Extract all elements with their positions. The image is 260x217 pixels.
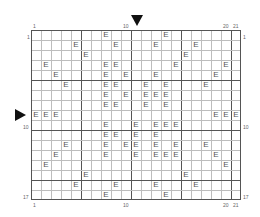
axis-label: 10 bbox=[123, 23, 129, 29]
grid-cell-filled[interactable]: E bbox=[211, 110, 221, 120]
grid-cell-filled[interactable]: E bbox=[171, 150, 181, 160]
grid-cell-filled[interactable]: E bbox=[131, 140, 141, 150]
grid-cell-filled[interactable]: E bbox=[151, 150, 161, 160]
grid-cell-filled[interactable]: E bbox=[61, 140, 71, 150]
grid-cell-filled[interactable]: E bbox=[51, 110, 61, 120]
grid-cell-filled[interactable]: E bbox=[161, 190, 171, 200]
grid-cell-filled[interactable]: E bbox=[41, 160, 51, 170]
grid-cell-filled[interactable]: E bbox=[111, 60, 121, 70]
grid-cell-filled[interactable]: E bbox=[61, 80, 71, 90]
grid-cell-filled[interactable]: E bbox=[191, 40, 201, 50]
grid-cell-filled[interactable]: E bbox=[111, 40, 121, 50]
grid-line bbox=[171, 31, 172, 199]
grid-cell-filled[interactable]: E bbox=[161, 90, 171, 100]
grid-cell-filled[interactable]: E bbox=[71, 180, 81, 190]
grid-cell-filled[interactable]: E bbox=[101, 150, 111, 160]
grid-line bbox=[191, 31, 192, 199]
grid-cell-filled[interactable]: E bbox=[41, 110, 51, 120]
grid-cell-filled[interactable]: E bbox=[151, 70, 161, 80]
grid-cell-filled[interactable]: E bbox=[181, 50, 191, 60]
grid-cell-filled[interactable]: E bbox=[171, 120, 181, 130]
grid-cell-filled[interactable]: E bbox=[141, 80, 151, 90]
grid-cell-filled[interactable]: E bbox=[221, 60, 231, 70]
grid-cell-filled[interactable]: E bbox=[71, 40, 81, 50]
grid-line bbox=[32, 50, 240, 51]
grid-line bbox=[111, 31, 112, 199]
grid-cell-filled[interactable]: E bbox=[181, 170, 191, 180]
grid-cell-filled[interactable]: E bbox=[141, 100, 151, 110]
grid-cell-filled[interactable]: E bbox=[121, 140, 131, 150]
grid-line bbox=[32, 60, 240, 61]
grid-cell-filled[interactable]: E bbox=[101, 140, 111, 150]
grid-cell-filled[interactable]: E bbox=[101, 70, 111, 80]
grid-line bbox=[151, 31, 152, 199]
grid-line bbox=[91, 31, 92, 199]
axis-label: 20 bbox=[223, 23, 229, 29]
grid-cell-filled[interactable]: E bbox=[101, 190, 111, 200]
grid-cell-filled[interactable]: E bbox=[141, 90, 151, 100]
grid-cell-filled[interactable]: E bbox=[151, 140, 161, 150]
grid-line bbox=[141, 31, 142, 199]
axis-label: 10 bbox=[123, 202, 129, 208]
grid-cell-filled[interactable]: E bbox=[161, 100, 171, 110]
grid-cell-filled[interactable]: E bbox=[101, 80, 111, 90]
grid-line bbox=[32, 110, 240, 111]
axis-label: 21 bbox=[233, 23, 239, 29]
grid-cell-filled[interactable]: E bbox=[231, 110, 241, 120]
grid-cell-filled[interactable]: E bbox=[151, 120, 161, 130]
grid-cell-filled[interactable]: E bbox=[221, 160, 231, 170]
axis-label: 10 bbox=[243, 124, 249, 130]
axis-label: 1 bbox=[33, 23, 36, 29]
grid-cell-filled[interactable]: E bbox=[161, 150, 171, 160]
grid-cell-filled[interactable]: E bbox=[101, 30, 111, 40]
grid-cell-filled[interactable]: E bbox=[51, 150, 61, 160]
grid-cell-filled[interactable]: E bbox=[101, 130, 111, 140]
grid-line bbox=[32, 40, 240, 41]
grid-cell-filled[interactable]: E bbox=[151, 40, 161, 50]
grid-cell-filled[interactable]: E bbox=[191, 180, 201, 190]
axis-label: 21 bbox=[233, 202, 239, 208]
grid-cell-filled[interactable]: E bbox=[221, 110, 231, 120]
grid-cell-filled[interactable]: E bbox=[131, 150, 141, 160]
grid-cell-filled[interactable]: E bbox=[171, 140, 181, 150]
grid-cell-filled[interactable]: E bbox=[51, 70, 61, 80]
grid-line bbox=[32, 160, 240, 161]
grid-cell-filled[interactable]: E bbox=[201, 80, 211, 90]
grid-cell-filled[interactable]: E bbox=[171, 60, 181, 70]
grid-line bbox=[121, 31, 122, 199]
axis-label: 1 bbox=[33, 202, 36, 208]
grid-line bbox=[32, 90, 240, 91]
grid-cell-filled[interactable]: E bbox=[101, 60, 111, 70]
grid-cell-filled[interactable]: E bbox=[101, 90, 111, 100]
grid-cell-filled[interactable]: E bbox=[121, 70, 131, 80]
grid-cell-filled[interactable]: E bbox=[81, 170, 91, 180]
grid-cell-filled[interactable]: E bbox=[131, 120, 141, 130]
grid-cell-filled[interactable]: E bbox=[101, 100, 111, 110]
grid-line bbox=[32, 70, 240, 71]
grid-cell-filled[interactable]: E bbox=[111, 100, 121, 110]
grid-cell-filled[interactable]: E bbox=[161, 120, 171, 130]
grid-cell-filled[interactable]: E bbox=[151, 90, 161, 100]
grid-cell-filled[interactable]: E bbox=[111, 180, 121, 190]
grid-cell-filled[interactable]: E bbox=[161, 30, 171, 40]
axis-label: 17 bbox=[23, 194, 29, 200]
grid-cell-filled[interactable]: E bbox=[101, 120, 111, 130]
row-marker-icon bbox=[15, 109, 26, 121]
grid-cell-filled[interactable]: E bbox=[151, 180, 161, 190]
grid-cell-filled[interactable]: E bbox=[81, 50, 91, 60]
grid-cell-filled[interactable]: E bbox=[131, 130, 141, 140]
grid-cell-filled[interactable]: E bbox=[111, 130, 121, 140]
axis-label: 1 bbox=[243, 34, 246, 40]
grid-cell-filled[interactable]: E bbox=[151, 130, 161, 140]
column-marker-icon bbox=[131, 15, 143, 26]
grid-cell-filled[interactable]: E bbox=[161, 80, 171, 90]
grid-cell-filled[interactable]: E bbox=[41, 60, 51, 70]
grid-cell-filled[interactable]: E bbox=[31, 110, 41, 120]
grid-cell-filled[interactable]: E bbox=[111, 80, 121, 90]
grid-cell-filled[interactable]: E bbox=[211, 70, 221, 80]
grid-line bbox=[32, 100, 240, 101]
axis-label: 17 bbox=[243, 194, 249, 200]
grid-cell-filled[interactable]: E bbox=[201, 140, 211, 150]
grid-cell-filled[interactable]: E bbox=[121, 90, 131, 100]
grid-cell-filled[interactable]: E bbox=[211, 150, 221, 160]
